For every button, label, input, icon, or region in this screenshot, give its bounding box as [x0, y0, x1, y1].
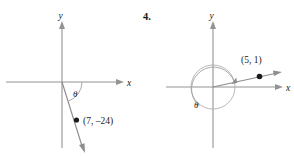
x-axis-label-left: x — [126, 78, 132, 88]
plotted-point-right — [257, 74, 263, 80]
angle-diagram-right: x y θ (5, 1) — [166, 11, 291, 148]
terminal-ray-arrowhead-right — [273, 71, 282, 77]
y-axis-arrowhead-right — [210, 21, 216, 29]
y-axis-arrowhead-left — [59, 21, 65, 29]
y-axis-label-left: y — [58, 11, 64, 21]
point-coordinate-label-right: (5, 1) — [241, 55, 262, 66]
angle-theta-label-right: θ — [194, 100, 199, 110]
x-axis-label-right: x — [285, 83, 291, 93]
plotted-point-left — [74, 117, 79, 122]
x-axis-arrowhead-left — [116, 79, 124, 85]
terminal-ray-arrowhead-left — [79, 143, 85, 153]
problem-number-label: 4. — [143, 11, 151, 22]
terminal-ray-right — [213, 74, 275, 88]
figure-container: x y θ (7, –24) 4. x — [0, 0, 294, 156]
y-axis-label-right: y — [209, 11, 215, 21]
terminal-ray-left — [62, 82, 82, 146]
angle-diagram-left: x y θ (7, –24) — [6, 11, 132, 153]
x-axis-arrowhead-right — [275, 84, 283, 90]
figure-svg: x y θ (7, –24) 4. x — [0, 0, 294, 156]
angle-theta-label-left: θ — [73, 89, 78, 99]
point-coordinate-label-left: (7, –24) — [83, 116, 113, 127]
